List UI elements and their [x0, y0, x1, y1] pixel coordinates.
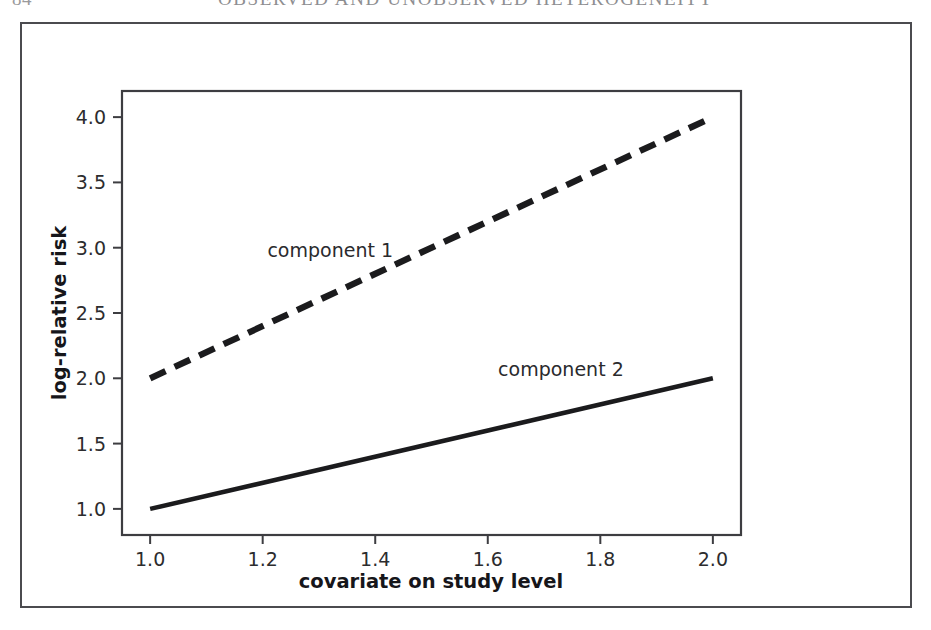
y-axis-title: log-relative risk [48, 225, 71, 400]
x-tick-label: 1.8 [585, 548, 615, 570]
y-tick-label: 1.5 [76, 433, 106, 455]
y-tick-label: 3.5 [76, 171, 106, 193]
series-line-dashed [150, 117, 713, 378]
x-axis-ticks: 1.01.21.41.61.82.0 [135, 535, 728, 570]
y-axis-ticks: 1.01.52.02.53.03.54.0 [76, 106, 122, 520]
y-tick-label: 4.0 [76, 106, 106, 128]
y-tick-label: 1.0 [76, 498, 106, 520]
y-tick-label: 2.5 [76, 302, 106, 324]
data-series-group [150, 117, 713, 509]
series-label: component 2 [498, 358, 624, 380]
x-tick-label: 1.0 [135, 548, 165, 570]
chart-figure: 1.01.52.02.53.03.54.0 1.01.21.41.61.82.0… [0, 0, 931, 630]
x-tick-label: 1.6 [473, 548, 503, 570]
y-tick-label: 2.0 [76, 367, 106, 389]
series-label-group: component 1component 2 [267, 239, 623, 380]
x-tick-label: 2.0 [698, 548, 728, 570]
x-tick-label: 1.2 [248, 548, 278, 570]
x-tick-label: 1.4 [360, 548, 390, 570]
plot-frame [122, 91, 741, 535]
y-tick-label: 3.0 [76, 237, 106, 259]
series-line-solid [150, 378, 713, 509]
x-axis-title: covariate on study level [299, 570, 564, 593]
series-label: component 1 [267, 239, 393, 261]
